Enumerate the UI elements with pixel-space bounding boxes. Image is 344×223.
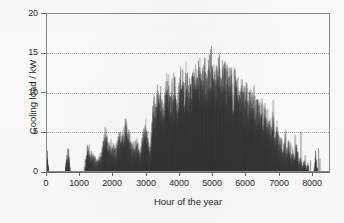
y-axis-title: Cooling load / kW [28, 17, 38, 177]
y-ticklabel-10: 10 [4, 88, 38, 97]
x-tick-6000 [245, 172, 246, 176]
y-ticklabel-15: 15 [4, 48, 38, 57]
y-ticklabel-20: 20 [4, 9, 38, 18]
cooling-load-series [47, 14, 329, 171]
x-axis-title: Hour of the year [46, 196, 330, 207]
y-ticklabel-0: 0 [4, 167, 38, 176]
x-tick-7000 [279, 172, 280, 176]
x-tick-0 [46, 172, 47, 176]
x-tick-2000 [112, 172, 113, 176]
cooling-load-figure: Cooling load / kW 20 15 10 5 0 0 1000 20… [0, 0, 344, 223]
x-tick-1000 [79, 172, 80, 176]
x-ticklabel-8000: 8000 [292, 178, 332, 188]
x-axis-line [46, 172, 330, 173]
x-tick-8000 [312, 172, 313, 176]
plot-area [46, 13, 330, 172]
x-tick-4000 [179, 172, 180, 176]
y-ticklabel-5: 5 [4, 127, 38, 136]
x-tick-5000 [212, 172, 213, 176]
x-tick-3000 [146, 172, 147, 176]
